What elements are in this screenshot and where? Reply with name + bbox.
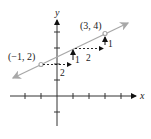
run-label-1: 2 bbox=[60, 68, 65, 78]
rise-label-1: 1 bbox=[75, 55, 80, 65]
run-label-2: 2 bbox=[86, 53, 91, 63]
rise-label-2: 1 bbox=[108, 39, 113, 49]
coordinate-plane: x y (−1, 2) (3, 4) 2 1 2 1 bbox=[0, 0, 151, 139]
point-a-label: (−1, 2) bbox=[8, 51, 35, 63]
x-axis-label: x bbox=[139, 90, 145, 101]
point-b-label: (3, 4) bbox=[80, 20, 102, 32]
x-axis bbox=[10, 93, 136, 99]
y-axis-label: y bbox=[54, 7, 60, 18]
point-a bbox=[39, 63, 43, 67]
point-b bbox=[103, 32, 107, 36]
